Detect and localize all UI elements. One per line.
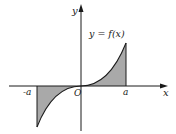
tick-label-neg-a: -a	[23, 87, 31, 97]
origin-label: O	[74, 88, 82, 98]
y-axis-label: y	[71, 5, 78, 16]
x-axis-label: x	[163, 87, 169, 98]
shaded-area-right	[81, 43, 126, 86]
curve-label: y = f(x)	[88, 28, 125, 39]
tick-label-a: a	[123, 87, 128, 97]
graph-canvas: y x O -a a y = f(x)	[0, 0, 176, 134]
y-axis-arrow-icon	[79, 4, 84, 12]
function-graph-figure: y x O -a a y = f(x)	[0, 0, 176, 134]
